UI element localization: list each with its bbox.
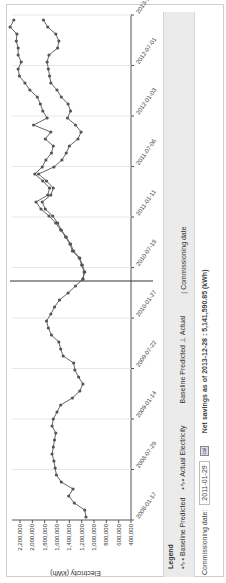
vertical-line-icon: | <box>180 292 187 294</box>
svg-text:1,000,000: 1,000,000 <box>91 523 97 550</box>
svg-text:2008-07-29: 2008-07-29 <box>135 440 158 469</box>
legend: Legend •∿•Baseline Predicted •∿•Actual E… <box>163 12 195 577</box>
legend-item-baseline: •∿•Baseline Predicted <box>179 498 187 569</box>
calendar-icon[interactable]: cal <box>200 446 209 456</box>
svg-text:1,400,000: 1,400,000 <box>66 523 72 550</box>
svg-text:2008-01-17: 2008-01-17 <box>135 490 158 519</box>
line-marker-icon: •∿• <box>179 558 186 569</box>
commissioning-label: Commissioning date: <box>201 510 208 575</box>
footer: Commissioning date: 2011-01-29 cal Net s… <box>199 270 210 575</box>
commissioning-date-input[interactable]: 2011-01-29 <box>199 461 210 504</box>
savings-bar-icon: ⊥ <box>179 337 186 343</box>
svg-text:2009-07-22: 2009-07-22 <box>135 339 158 368</box>
svg-text:2,000,000: 2,000,000 <box>29 523 35 550</box>
net-savings-text: Net savings as of 2013-12-28 : 5,141,590… <box>201 270 208 434</box>
svg-text:2010-07-18: 2010-07-18 <box>135 238 158 267</box>
svg-text:1,600,000: 1,600,000 <box>54 523 60 550</box>
chart-stage: 2,200,0002,000,0001,800,0001,600,0001,40… <box>0 0 226 583</box>
legend-label: Actual Electricity <box>179 425 186 476</box>
line-marker-icon: •∿• <box>179 479 186 490</box>
svg-text:1,800,000: 1,800,000 <box>42 523 48 550</box>
legend-item-actual: •∿•Actual Electricity <box>179 425 187 489</box>
svg-text:2012-07-01: 2012-07-01 <box>135 36 158 65</box>
svg-text:2013-12-28: 2013-12-28 <box>135 0 158 15</box>
svg-text:400,000: 400,000 <box>128 523 134 545</box>
svg-text:800,000: 800,000 <box>103 523 109 545</box>
svg-text:Electricity (kWh): Electricity (kWh) <box>50 569 101 577</box>
svg-text:2009-01-14: 2009-01-14 <box>135 389 158 418</box>
svg-text:2010-01-27: 2010-01-27 <box>135 288 158 317</box>
legend-item-savings: Baseline Predicted ⊥Actual <box>179 316 187 404</box>
legend-item-commissioning: |Commissioning date <box>180 226 187 293</box>
legend-label: Baseline Predicted <box>179 498 186 556</box>
legend-label: Baseline Predicted <box>179 345 186 403</box>
legend-label: Actual <box>179 316 186 335</box>
svg-text:2011-07-06: 2011-07-06 <box>135 137 158 166</box>
svg-text:2,200,000: 2,200,000 <box>17 523 23 550</box>
svg-text:2011-01-11: 2011-01-11 <box>135 188 157 216</box>
svg-text:2012-01-03: 2012-01-03 <box>135 86 158 115</box>
legend-title: Legend <box>167 544 174 569</box>
legend-label: Commissioning date <box>180 226 187 289</box>
svg-text:600,000: 600,000 <box>116 523 122 545</box>
svg-text:1,200,000: 1,200,000 <box>79 523 85 550</box>
